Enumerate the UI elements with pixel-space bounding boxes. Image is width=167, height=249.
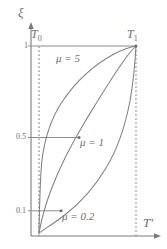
- figure-container: ξ T′ T0 T1 1 0.5 0.1 μ = 5 μ = 1 μ = 0.2: [0, 0, 167, 249]
- curve-label-mu-02: μ = 0.2: [62, 211, 94, 222]
- reference-lines-group: [31, 46, 136, 211]
- t0-marker-label: T0: [31, 28, 42, 43]
- marker-dots-group: [60, 45, 138, 213]
- t1-marker-label: T1: [127, 28, 138, 43]
- t0-marker-label-text: T: [31, 27, 38, 41]
- y-tick-label-1: 1: [8, 42, 28, 50]
- curve-label-mu-5: μ = 5: [56, 53, 80, 64]
- t0-marker-label-sub: 0: [38, 34, 42, 43]
- convergence-point-dot: [135, 45, 138, 48]
- x-axis-arrow: [154, 233, 161, 238]
- curve-label-mu-1: μ = 1: [80, 137, 104, 148]
- y-axis-label: ξ: [18, 6, 24, 19]
- y-tick-label-01: 0.1: [6, 207, 26, 215]
- x-axis-label: T′: [143, 216, 153, 229]
- t1-marker-label-text: T: [127, 27, 134, 41]
- t1-marker-label-sub: 1: [134, 34, 138, 43]
- y-tick-label-05: 0.5: [6, 133, 26, 141]
